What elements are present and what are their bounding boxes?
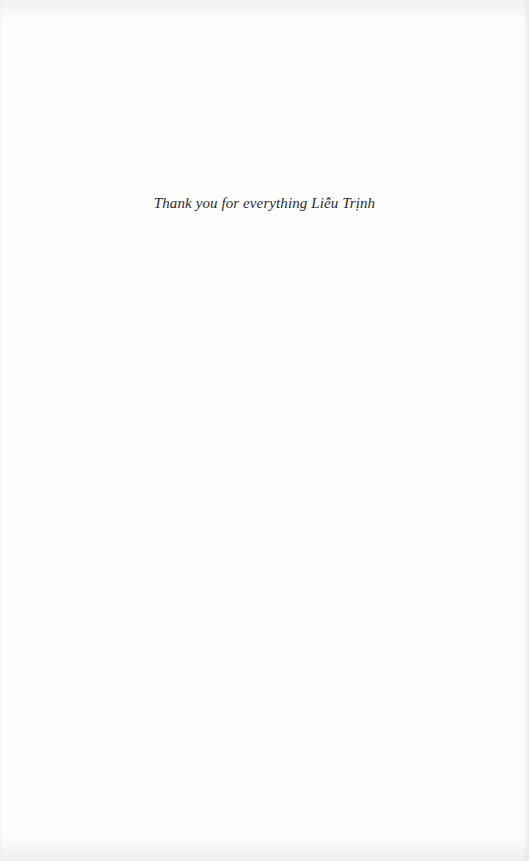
dedication-text: Thank you for everything Liễu Trịnh xyxy=(0,193,529,213)
scan-edge-bottom xyxy=(0,835,529,861)
scan-edge-right xyxy=(523,0,529,861)
scan-edge-left xyxy=(0,0,4,861)
scan-edge-top xyxy=(0,0,529,22)
book-page: Thank you for everything Liễu Trịnh xyxy=(0,0,529,861)
